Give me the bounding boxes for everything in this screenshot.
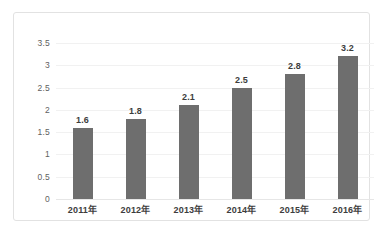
bar-slot: 1.8 <box>109 43 162 199</box>
bar[interactable] <box>126 119 146 199</box>
bar-value-label: 1.8 <box>129 106 142 116</box>
plot-area: 00.511.522.533.5 1.61.82.12.52.83.2 <box>56 43 374 199</box>
y-axis-tick-label: 1.5 <box>38 127 50 137</box>
x-axis-category-label: 2014年 <box>226 203 256 216</box>
x-axis-category-label: 2013年 <box>173 203 203 216</box>
bar-slot: 3.2 <box>321 43 374 199</box>
bar-chart: 00.511.522.533.5 1.61.82.12.52.83.2 2011… <box>0 0 387 241</box>
y-axis-tick-label: 3 <box>45 60 50 70</box>
y-axis-tick-label: 1 <box>45 149 50 159</box>
x-axis-category-label: 2015年 <box>279 203 309 216</box>
bars-layer: 1.61.82.12.52.83.2 <box>56 43 374 199</box>
bar[interactable] <box>232 88 252 199</box>
bar-slot: 1.6 <box>56 43 109 199</box>
bar[interactable] <box>73 128 93 199</box>
y-axis-tick-label: 2.5 <box>38 83 50 93</box>
y-axis-tick-label: 0.5 <box>38 172 50 182</box>
x-axis-category-label: 2012年 <box>120 203 150 216</box>
x-axis-category-label: 2016年 <box>332 203 362 216</box>
bar[interactable] <box>285 74 305 199</box>
chart-frame: 00.511.522.533.5 1.61.82.12.52.83.2 2011… <box>13 12 370 221</box>
bar[interactable] <box>338 56 358 199</box>
bar-value-label: 2.5 <box>235 75 248 85</box>
bar-value-label: 3.2 <box>341 43 354 53</box>
bar-value-label: 2.1 <box>182 92 195 102</box>
y-axis-tick-label: 2 <box>45 105 50 115</box>
y-axis-tick-label: 0 <box>45 194 50 204</box>
bar-slot: 2.5 <box>215 43 268 199</box>
x-axis-category-labels: 2011年2012年2013年2014年2015年2016年 <box>56 203 374 223</box>
gridline <box>56 199 374 200</box>
bar[interactable] <box>179 105 199 199</box>
bar-value-label: 1.6 <box>76 115 89 125</box>
bar-slot: 2.1 <box>162 43 215 199</box>
bar-value-label: 2.8 <box>288 61 301 71</box>
y-axis-tick-label: 3.5 <box>38 38 50 48</box>
x-axis-category-label: 2011年 <box>68 203 98 216</box>
bar-slot: 2.8 <box>268 43 321 199</box>
